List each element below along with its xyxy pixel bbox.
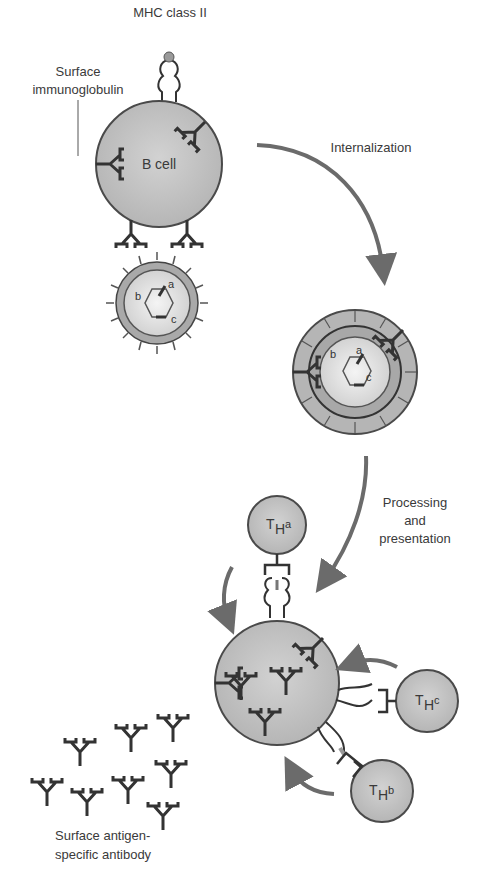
epitope-c-label: c: [171, 313, 177, 325]
th-a-t: T: [266, 516, 275, 532]
processing-label-3: presentation: [379, 531, 451, 546]
th-b-arrow: [292, 770, 334, 794]
th-a-suffix: a: [285, 518, 292, 530]
th-c-h: H: [424, 697, 434, 713]
epitope-a-label: a: [168, 278, 175, 290]
mhc-class-ii-label: MHC class II: [133, 5, 207, 20]
b-cell-antigen-presentation-diagram: B cell MHC class II Surface immunoglobul…: [0, 0, 491, 885]
secreted-antibodies: [32, 714, 188, 830]
b-cell-presenting: [215, 621, 372, 756]
tcr-icon: [265, 554, 289, 575]
epitope-a-label: a: [356, 344, 363, 356]
th-b-t: T: [369, 782, 378, 798]
epitope-b-label: b: [330, 348, 336, 360]
t-helper-cell-a: T H a: [248, 496, 306, 618]
mhc-class-ii-icon: [158, 52, 179, 102]
th-b-h: H: [378, 787, 388, 803]
epitope-c-label: c: [366, 371, 372, 383]
th-b-suffix: b: [388, 784, 394, 796]
internalization-label: Internalization: [331, 140, 412, 155]
surface-ig-label-1: Surface: [56, 64, 101, 79]
b-cell-label: B cell: [142, 156, 176, 172]
internalization-arrow: [257, 145, 383, 270]
mhc-class-ii-icon: [336, 684, 372, 706]
antibody-label-2: specific antibody: [55, 847, 152, 862]
surface-ig-label-2: immunoglobulin: [32, 82, 123, 97]
th-c-suffix: c: [434, 694, 440, 706]
t-helper-cell-b: T H b: [337, 753, 413, 822]
th-c-t: T: [415, 692, 424, 708]
th-c-arrow: [350, 660, 397, 667]
tcr-icon: [378, 690, 396, 712]
t-helper-cell-c: T H c: [378, 670, 458, 732]
antibody-label-1: Surface antigen-: [55, 828, 150, 843]
epitope-b-label: b: [135, 290, 141, 302]
th-a-arrow: [224, 567, 232, 620]
processing-label-2: and: [404, 513, 426, 528]
b-cell-internalized: a b c: [293, 310, 417, 434]
processing-arrow: [325, 456, 366, 580]
th-a-h: H: [275, 521, 285, 537]
antigen-particle: a b c: [106, 252, 208, 354]
processing-label-1: Processing: [383, 495, 447, 510]
